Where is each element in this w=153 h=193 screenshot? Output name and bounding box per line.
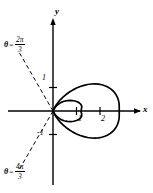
x-axis-arrowhead (134, 108, 141, 113)
y-axis (50, 18, 55, 185)
y-tick-label-1: 1 (42, 74, 46, 82)
x-tick-label-1: 1 (78, 115, 82, 123)
annotation-theta-4pi-over-3: θ = 4π 3 (4, 163, 25, 180)
fraction-lower: 4π 3 (15, 163, 25, 180)
theta-symbol-upper: θ (4, 40, 8, 49)
y-tick-label-minus-1: -1 (37, 129, 44, 137)
x-axis-label: x (143, 105, 148, 114)
tangent-line-2pi-over-3 (19, 51, 54, 111)
fraction-numerator-lower: 4π (15, 163, 25, 171)
x-axis (8, 108, 141, 113)
equals-symbol-lower: = (9, 168, 13, 176)
fraction-upper: 2π 3 (15, 36, 25, 53)
y-axis-arrowhead (50, 18, 55, 25)
x-tick-label-2: 2 (101, 115, 105, 123)
equals-symbol-upper: = (9, 41, 13, 49)
annotation-theta-2pi-over-3: θ = 2π 3 (4, 36, 25, 53)
polar-plot-figure: y x 1 2 1 -1 θ = 2π 3 θ = 4π 3 (0, 0, 153, 193)
y-axis-label: y (55, 7, 59, 16)
fraction-denominator-lower: 3 (17, 173, 23, 181)
fraction-numerator-upper: 2π (15, 36, 25, 44)
theta-symbol-lower: θ (4, 167, 8, 176)
fraction-denominator-upper: 3 (17, 46, 23, 54)
